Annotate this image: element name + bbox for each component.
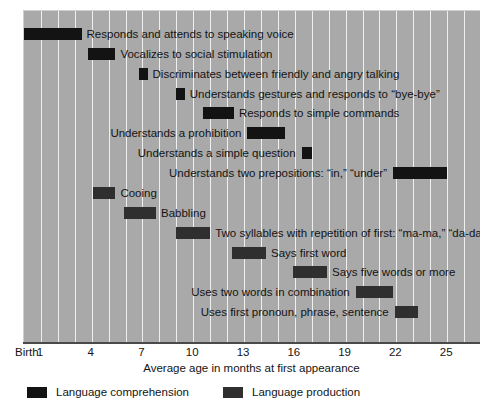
milestone-label: Vocalizes to social stimulation — [120, 45, 272, 63]
milestone-bar — [232, 247, 266, 259]
legend-swatch-comprehension — [27, 387, 47, 398]
legend-item: Language comprehension — [27, 386, 189, 398]
chart-row: Cooing — [24, 182, 480, 204]
x-tick-label: 13 — [237, 345, 250, 359]
milestone-bar — [93, 187, 115, 199]
milestone-bar — [203, 107, 233, 119]
chart-row: Understands gestures and responds to “by… — [24, 83, 480, 105]
chart-row: Says five words or more — [24, 261, 480, 283]
x-tick-label: 7 — [138, 345, 144, 359]
milestone-bar — [24, 28, 82, 40]
chart-row: Understands a simple question — [24, 142, 480, 164]
milestone-bar — [395, 306, 419, 318]
milestone-bar — [139, 68, 147, 80]
milestone-bar — [293, 266, 327, 278]
chart-row: Two syllables with repetition of first: … — [24, 222, 480, 244]
legend-item: Language production — [223, 386, 360, 398]
x-tick-label: 19 — [338, 345, 351, 359]
language-development-chart: Responds and attends to speaking voiceVo… — [0, 0, 503, 410]
x-tick-label: Birth — [15, 345, 39, 359]
milestone-bar — [302, 147, 312, 159]
milestone-label: Discriminates between friendly and angry… — [153, 65, 400, 83]
x-tick-label: 25 — [440, 345, 453, 359]
milestone-bar — [124, 207, 156, 219]
chart-row: Babbling — [24, 202, 480, 224]
milestone-label: Two syllables with repetition of first: … — [215, 224, 480, 242]
milestone-label: Understands two prepositions: “in,” “und… — [169, 164, 387, 182]
milestone-label: Uses two words in combination — [191, 283, 350, 301]
x-tick-label: 16 — [287, 345, 300, 359]
milestone-label: Understands gestures and responds to “by… — [190, 85, 440, 103]
milestone-label: Responds to simple commands — [239, 104, 399, 122]
chart-row: Vocalizes to social stimulation — [24, 43, 480, 65]
plot-area: Responds and attends to speaking voiceVo… — [23, 10, 480, 342]
chart-row: Understands two prepositions: “in,” “und… — [24, 162, 480, 184]
x-axis-title: Average age in months at first appearanc… — [23, 362, 480, 374]
x-tick-label: 4 — [88, 345, 94, 359]
bar-rows: Responds and attends to speaking voiceVo… — [24, 11, 480, 342]
chart-row: Discriminates between friendly and angry… — [24, 63, 480, 85]
milestone-label: Understands a simple question — [138, 144, 296, 162]
milestone-label: Responds and attends to speaking voice — [87, 25, 294, 43]
milestone-label: Uses first pronoun, phrase, sentence — [201, 303, 389, 321]
legend-label: Language production — [252, 386, 360, 398]
milestone-bar — [393, 167, 447, 179]
milestone-label: Understands a prohibition — [110, 124, 241, 142]
x-axis-tick-labels: Birth147101316192225 — [23, 345, 480, 361]
milestone-bar — [247, 127, 284, 139]
chart-row: Uses two words in combination — [24, 281, 480, 303]
chart-row: Responds and attends to speaking voice — [24, 23, 480, 45]
milestone-bar — [88, 48, 115, 60]
milestone-label: Babbling — [161, 204, 206, 222]
x-tick-label: 1 — [37, 345, 43, 359]
milestone-bar — [176, 88, 184, 100]
x-axis-line — [23, 342, 480, 344]
legend-label: Language comprehension — [56, 386, 189, 398]
milestone-label: Cooing — [120, 184, 156, 202]
x-tick-label: 22 — [389, 345, 402, 359]
chart-row: Says first word — [24, 242, 480, 264]
chart-row: Responds to simple commands — [24, 102, 480, 124]
x-tick-label: 10 — [186, 345, 199, 359]
chart-row: Uses first pronoun, phrase, sentence — [24, 301, 480, 323]
chart-row: Understands a prohibition — [24, 122, 480, 144]
milestone-label: Says first word — [271, 244, 346, 262]
milestone-bar — [356, 286, 393, 298]
milestone-label: Says five words or more — [332, 263, 455, 281]
milestone-bar — [176, 227, 210, 239]
legend: Language comprehensionLanguage productio… — [27, 386, 360, 398]
legend-swatch-production — [223, 387, 243, 398]
